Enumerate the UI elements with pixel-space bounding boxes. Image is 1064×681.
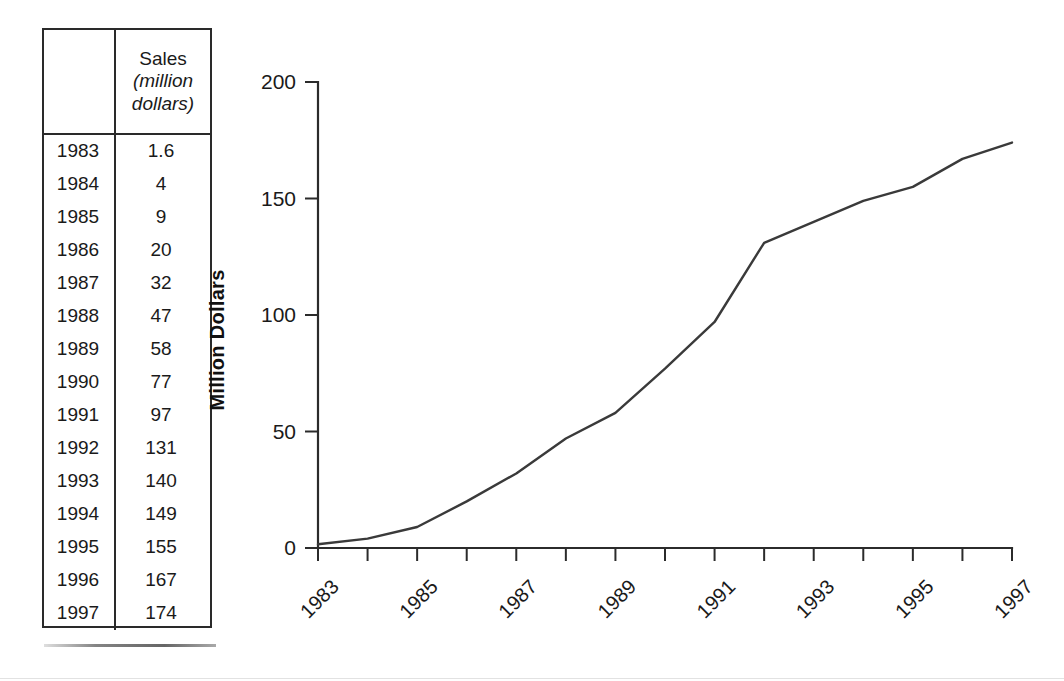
cell-sales-value: 97: [115, 399, 210, 432]
cell-year: 1990: [44, 366, 115, 399]
column-header-year: [44, 30, 115, 134]
cell-sales-value: 155: [115, 531, 210, 564]
table-header: Sales (million dollars): [44, 30, 210, 134]
cell-sales-value: 131: [115, 432, 210, 465]
y-axis-ticks: 050100150200: [261, 70, 318, 559]
cell-sales-value: 32: [115, 267, 210, 300]
table-row: 19844: [44, 168, 210, 201]
table-row: 199197: [44, 399, 210, 432]
cell-sales-value: 58: [115, 333, 210, 366]
table-row: 1992131: [44, 432, 210, 465]
x-tick-label: 1983: [296, 575, 343, 622]
table: Sales (million dollars) 19831.6198441985…: [44, 30, 210, 630]
table-row: 199077: [44, 366, 210, 399]
chart-svg: Million Dollars 050100150200 19831985198…: [200, 40, 1064, 665]
table-row: 1996167: [44, 564, 210, 597]
column-header-sales: Sales (million dollars): [115, 30, 210, 134]
cell-year: 1984: [44, 168, 115, 201]
table-row: 19859: [44, 201, 210, 234]
cell-year: 1985: [44, 201, 115, 234]
cell-year: 1983: [44, 134, 115, 168]
table-row: 1995155: [44, 531, 210, 564]
scan-artifact-line-bottom: [0, 678, 1064, 679]
cell-year: 1995: [44, 531, 115, 564]
x-tick-label: 1989: [593, 575, 640, 622]
cell-sales-value: 20: [115, 234, 210, 267]
column-header-sales-unit-line2: dollars): [116, 93, 210, 115]
y-tick-label: 150: [261, 187, 296, 210]
table-row: 1993140: [44, 465, 210, 498]
x-tick-label: 1995: [891, 575, 938, 622]
table-row: 19831.6: [44, 134, 210, 168]
cell-year: 1987: [44, 267, 115, 300]
y-tick-label: 0: [284, 536, 296, 559]
x-tick-label: 1985: [395, 575, 442, 622]
table-row: 198958: [44, 333, 210, 366]
table-row: 198620: [44, 234, 210, 267]
cell-year: 1991: [44, 399, 115, 432]
scan-artifact-line: [44, 644, 216, 647]
cell-sales-value: 47: [115, 300, 210, 333]
cell-sales-value: 174: [115, 597, 210, 630]
cell-sales-value: 4: [115, 168, 210, 201]
cell-sales-value: 9: [115, 201, 210, 234]
cell-sales-value: 167: [115, 564, 210, 597]
x-tick-label: 1997: [990, 575, 1037, 622]
x-axis-ticks: 19831985198719891991199319951997: [296, 548, 1037, 622]
y-axis-title: Million Dollars: [206, 269, 228, 410]
table-body: 19831.6198441985919862019873219884719895…: [44, 134, 210, 630]
x-tick-label: 1993: [792, 575, 839, 622]
column-header-sales-unit-line1: (million: [116, 70, 210, 92]
cell-year: 1986: [44, 234, 115, 267]
sales-data-line: [318, 143, 1012, 545]
sales-line-chart: Million Dollars 050100150200 19831985198…: [200, 40, 1064, 665]
cell-sales-value: 149: [115, 498, 210, 531]
cell-sales-value: 77: [115, 366, 210, 399]
table-row: 198732: [44, 267, 210, 300]
cell-year: 1989: [44, 333, 115, 366]
y-tick-label: 50: [273, 420, 296, 443]
sales-data-table: Sales (million dollars) 19831.6198441985…: [42, 28, 212, 628]
cell-year: 1996: [44, 564, 115, 597]
y-tick-label: 200: [261, 70, 296, 93]
table-row: 1994149: [44, 498, 210, 531]
header-row: Sales (million dollars): [44, 30, 210, 134]
table-row: 1997174: [44, 597, 210, 630]
cell-sales-value: 1.6: [115, 134, 210, 168]
cell-year: 1992: [44, 432, 115, 465]
column-header-sales-title: Sales: [116, 48, 210, 70]
cell-year: 1993: [44, 465, 115, 498]
table-row: 198847: [44, 300, 210, 333]
y-tick-label: 100: [261, 303, 296, 326]
cell-year: 1988: [44, 300, 115, 333]
cell-year: 1994: [44, 498, 115, 531]
cell-sales-value: 140: [115, 465, 210, 498]
cell-year: 1997: [44, 597, 115, 630]
x-tick-label: 1987: [494, 575, 541, 622]
x-tick-label: 1991: [692, 575, 739, 622]
